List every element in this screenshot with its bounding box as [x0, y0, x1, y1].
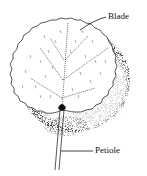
blade-label: Blade	[108, 12, 129, 21]
leaf-illustration	[0, 0, 147, 176]
leaf-diagram: Blade Petiole	[0, 0, 147, 176]
leaf-blade	[10, 18, 117, 113]
petiole-label: Petiole	[95, 146, 120, 155]
